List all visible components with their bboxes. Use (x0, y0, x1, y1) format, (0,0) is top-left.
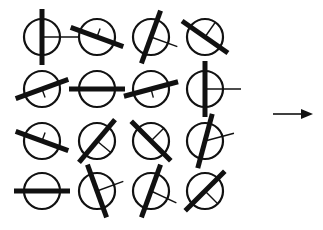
orientation-glyph (182, 19, 228, 55)
glyph-grid-diagram (0, 0, 323, 230)
arrow-head (301, 109, 313, 119)
direction-line (205, 22, 215, 37)
orientation-glyph (124, 71, 178, 107)
orientation-glyph (133, 11, 177, 64)
direction-line (151, 128, 164, 141)
orientation-glyph (14, 173, 70, 209)
direction-line (151, 37, 177, 47)
direction-line (151, 191, 176, 203)
orientation-bar (131, 121, 171, 161)
direction-line (97, 181, 123, 191)
orientation-glyph (187, 61, 241, 117)
glyph-grid (14, 9, 241, 217)
orientation-bar (185, 171, 225, 211)
orientation-glyph (16, 71, 69, 107)
orientation-glyph (185, 171, 225, 211)
orientation-glyph (133, 165, 176, 218)
orientation-glyph (71, 19, 124, 55)
orientation-glyph (131, 121, 171, 161)
orientation-glyph (69, 71, 125, 107)
orientation-glyph (79, 165, 123, 218)
orientation-glyph (187, 114, 234, 168)
right-arrow-icon (273, 109, 313, 119)
orientation-glyph (79, 120, 115, 163)
direction-line (205, 191, 218, 204)
orientation-bar (79, 120, 115, 163)
orientation-glyph (16, 123, 69, 159)
orientation-glyph (24, 9, 78, 65)
direction-line (97, 141, 111, 153)
orientation-bar (182, 21, 228, 53)
